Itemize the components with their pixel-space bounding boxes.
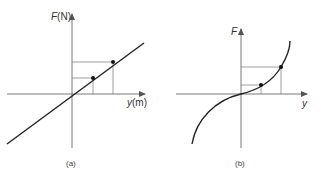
panel-a: F(N) y(m) (a) — [7, 11, 147, 168]
y-axis-label-a: F(N) — [51, 11, 71, 22]
x-axis-label-b: y — [301, 98, 308, 109]
panel-b: F y (b) — [176, 26, 308, 168]
linear-curve — [7, 43, 144, 144]
caption-b: (b) — [235, 159, 245, 168]
data-point — [111, 60, 115, 64]
data-point — [279, 65, 283, 69]
y-axis-label-b: F — [231, 26, 238, 37]
data-point — [259, 83, 263, 87]
force-displacement-diagrams: F(N) y(m) (a) F y (b) — [0, 0, 320, 178]
x-axis-label-a: y(m) — [126, 97, 147, 108]
data-point — [91, 76, 95, 80]
caption-a: (a) — [66, 159, 76, 168]
guide-lines-b — [241, 67, 281, 94]
